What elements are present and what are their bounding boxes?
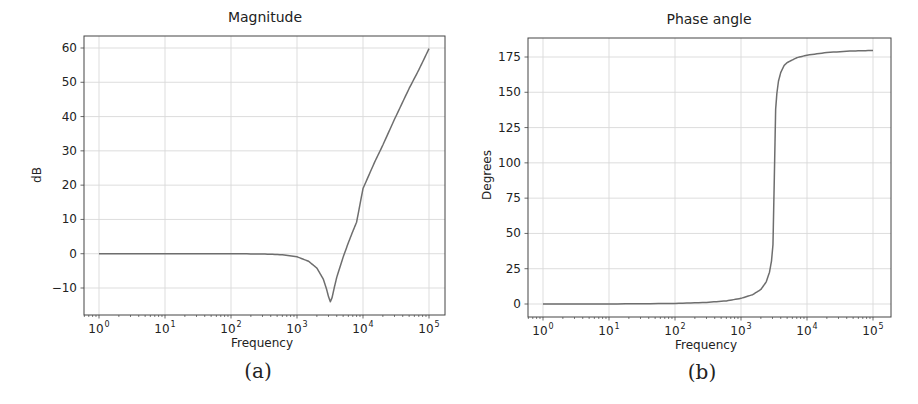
y-tick-label: 0: [37, 247, 77, 261]
y-tick-label: 40: [37, 110, 77, 124]
x-tick-label: 105: [418, 320, 439, 336]
data-line: [99, 49, 429, 302]
y-tick-label: 20: [37, 178, 77, 192]
y-tick-label: 10: [37, 212, 77, 226]
phase-xlabel: Frequency: [675, 338, 737, 352]
axes-frame: [528, 38, 891, 317]
grid: [84, 36, 445, 315]
x-tick-label: 103: [286, 320, 307, 336]
caption-a: (a): [244, 359, 272, 383]
x-tick-label: 101: [598, 322, 619, 338]
x-tick-label: 100: [532, 322, 553, 338]
phase-panel: Phase angle Degrees Frequency (b) 100101…: [459, 0, 918, 404]
y-tick-label: 60: [37, 41, 77, 55]
x-tick-label: 105: [862, 322, 883, 338]
y-tick-label: 50: [37, 75, 77, 89]
phase-title: Phase angle: [666, 11, 751, 27]
y-tick-label: −10: [37, 281, 77, 295]
y-tick-label: 25: [481, 262, 521, 276]
x-tick-label: 100: [88, 320, 109, 336]
x-tick-label: 103: [730, 322, 751, 338]
x-tick-label: 104: [796, 322, 817, 338]
y-tick-label: 125: [481, 121, 521, 135]
grid: [528, 38, 891, 317]
y-tick-label: 0: [481, 297, 521, 311]
y-tick-label: 175: [481, 50, 521, 64]
magnitude-plot: [0, 0, 459, 404]
x-tick-label: 101: [154, 320, 175, 336]
y-tick-label: 30: [37, 144, 77, 158]
y-tick-label: 150: [481, 85, 521, 99]
data-line: [543, 51, 873, 304]
y-tick-label: 50: [481, 226, 521, 240]
x-tick-label: 102: [664, 322, 685, 338]
x-tick-label: 102: [220, 320, 241, 336]
y-tick-label: 75: [481, 191, 521, 205]
magnitude-panel: Magnitude dB Frequency (a) 1001011021031…: [0, 0, 459, 404]
magnitude-xlabel: Frequency: [231, 336, 293, 350]
magnitude-title: Magnitude: [228, 9, 302, 25]
x-tick-label: 104: [352, 320, 373, 336]
caption-b: (b): [688, 360, 716, 384]
axes-frame: [84, 36, 445, 315]
y-tick-label: 100: [481, 156, 521, 170]
